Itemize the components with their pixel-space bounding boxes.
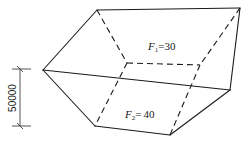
dimension-value: 50000 <box>7 84 18 112</box>
edge-left-bottom <box>43 70 95 126</box>
edge-bottom-right <box>170 90 230 135</box>
hidden-edge-center-to-bottom-left <box>95 63 127 126</box>
edge-top-back <box>97 8 240 10</box>
visible-edges <box>43 8 240 135</box>
top-face-label: F1=30 <box>147 40 176 54</box>
hidden-edge-center-horizontal <box>127 63 200 65</box>
edge-left-top <box>43 10 97 70</box>
height-dimension: 50000 <box>7 66 31 129</box>
prismatoid-diagram: F1=30 F2=40 50000 <box>0 0 245 151</box>
hidden-edge-right-to-bottom-right <box>170 65 200 135</box>
edge-bottom-front <box>95 126 170 135</box>
hidden-edges <box>95 8 240 135</box>
bottom-face-label: F2=40 <box>124 108 155 122</box>
edge-middle-front <box>43 70 230 90</box>
hidden-edge-top-to-center <box>97 10 127 63</box>
